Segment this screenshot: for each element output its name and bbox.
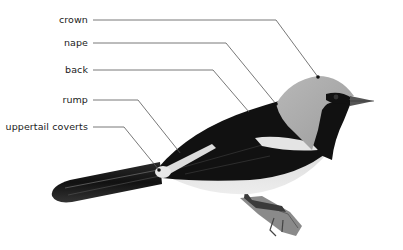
leader-line-nape [93,43,276,104]
label-back: back [65,64,88,76]
leader-line-uppertail-coverts [93,127,159,170]
callout-dot-crown [316,75,320,79]
bird-tail [52,162,162,202]
label-crown: crown [59,14,88,26]
bird-eye [334,95,339,100]
leader-line-back [93,70,249,112]
callout-dot-rump [179,152,182,155]
leader-line-crown [93,20,318,77]
label-uppertail-coverts: uppertail coverts [6,121,88,133]
bird-anatomy-diagram: crown nape back rump uppertail coverts [0,0,403,250]
callout-dot-uppertail-coverts [157,168,161,172]
callout-dot-nape [274,102,278,106]
label-rump: rump [62,94,88,106]
label-nape: nape [64,37,88,49]
